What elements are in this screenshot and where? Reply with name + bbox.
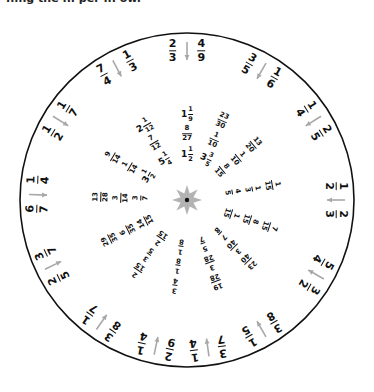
arrowhead-icon — [185, 55, 190, 60]
center-star-icon — [172, 185, 202, 215]
center-dot-icon — [185, 198, 189, 202]
arrowhead-icon — [42, 192, 47, 197]
fraction-wheel — [0, 0, 374, 392]
arrowhead-icon — [327, 198, 332, 203]
arrowhead-icon — [154, 337, 159, 342]
